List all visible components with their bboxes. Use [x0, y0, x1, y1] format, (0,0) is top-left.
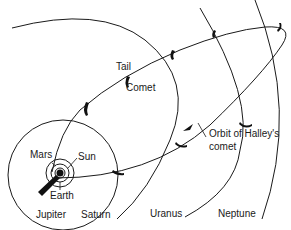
- saturn-orbit: [12, 19, 178, 219]
- comet-label: Comet: [126, 82, 156, 93]
- sun-label: Sun: [78, 151, 96, 162]
- comet-tail-icon: [171, 50, 176, 60]
- saturn-label: Saturn: [81, 209, 110, 220]
- jupiter-label: Jupiter: [36, 209, 67, 220]
- orbit-label-line1: Orbit of Halley's: [209, 128, 279, 139]
- orbit-label-line2: comet: [209, 141, 236, 152]
- halley-orbit-diagram: Tail Comet Mars Sun Earth Jupiter Saturn…: [0, 0, 291, 230]
- earth-label: Earth: [50, 190, 74, 201]
- neptune-orbit: [255, 0, 279, 219]
- comet-tail-icon: [239, 122, 252, 128]
- uranus-orbit: [185, 8, 243, 217]
- direction-arrow-icon: [183, 124, 193, 131]
- comet-tail-icon: [175, 142, 187, 148]
- tail-label: Tail: [116, 61, 131, 72]
- neptune-label: Neptune: [218, 208, 256, 219]
- mars-label: Mars: [30, 149, 52, 160]
- sun-icon: [57, 170, 64, 177]
- comet-tail-icon: [84, 102, 89, 116]
- uranus-label: Uranus: [150, 208, 182, 219]
